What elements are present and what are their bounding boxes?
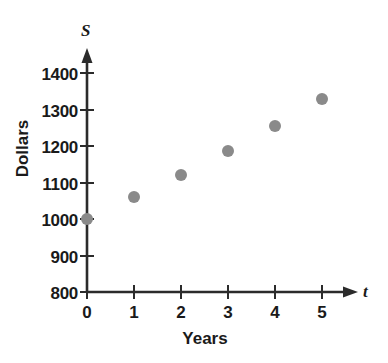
x-axis-variable-label: t — [363, 283, 368, 300]
plot-area: 1400 1300 1200 1100 1000 900 800 0 1 2 3… — [0, 0, 388, 363]
y-axis-title: Dollars — [14, 104, 31, 194]
data-point — [316, 93, 328, 105]
scatter-plot-figure: 1400 1300 1200 1100 1000 900 800 0 1 2 3… — [0, 0, 388, 363]
x-axis-arrowhead — [343, 287, 358, 298]
x-tick-label-2: 2 — [166, 304, 196, 321]
x-tick-label-3: 3 — [213, 304, 243, 321]
data-point — [269, 120, 281, 132]
y-axis-variable-label: S — [81, 22, 90, 39]
y-tick-label-1000: 1000 — [18, 212, 78, 213]
x-tick-label-4: 4 — [260, 304, 290, 321]
data-point — [128, 191, 140, 203]
data-point — [81, 213, 93, 225]
y-tick-label-1400: 1400 — [18, 66, 78, 67]
x-axis-title: Years — [135, 330, 275, 347]
y-axis-arrowhead — [82, 48, 93, 63]
x-tick-label-0: 0 — [72, 304, 102, 321]
y-tick-label-800: 800 — [18, 285, 78, 286]
x-tick-label-5: 5 — [307, 304, 337, 321]
y-tick-label-900: 900 — [18, 249, 78, 250]
x-tick-label-1: 1 — [119, 304, 149, 321]
